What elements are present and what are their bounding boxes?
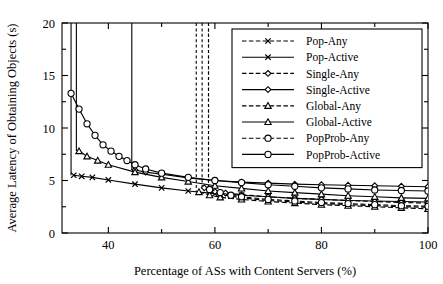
- marker-circle: [217, 189, 223, 195]
- legend-label: PopProb-Active: [306, 149, 380, 162]
- marker-circle: [265, 151, 271, 157]
- y-axis-label: Average Latency of Obtaining Objects (s): [5, 23, 19, 232]
- x-axis-label: Percentage of ASs with Content Servers (…: [134, 264, 356, 278]
- marker-circle: [68, 90, 74, 96]
- legend-label: Global-Active: [306, 116, 372, 128]
- legend-label: PopProb-Any: [306, 132, 370, 145]
- marker-circle: [265, 182, 271, 188]
- marker-circle: [143, 166, 149, 172]
- marker-circle: [212, 177, 218, 183]
- marker-circle: [124, 157, 130, 163]
- marker-circle: [238, 180, 244, 186]
- marker-circle: [265, 196, 271, 202]
- x-tick-label: 40: [102, 238, 115, 252]
- marker-circle: [159, 170, 165, 176]
- marker-circle: [318, 185, 324, 191]
- marker-circle: [425, 203, 431, 209]
- latency-line-chart: 40608010005101520Percentage of ASs with …: [0, 0, 443, 284]
- y-tick-label: 10: [43, 122, 56, 136]
- marker-circle: [238, 194, 244, 200]
- legend-label: Single-Any: [306, 68, 359, 81]
- marker-circle: [292, 183, 298, 189]
- marker-circle: [76, 106, 82, 112]
- y-tick-label: 5: [49, 174, 55, 188]
- x-tick-label: 80: [315, 238, 328, 252]
- marker-circle: [228, 192, 234, 198]
- marker-circle: [372, 187, 378, 193]
- marker-circle: [372, 202, 378, 208]
- marker-circle: [398, 203, 404, 209]
- legend-label: Pop-Active: [306, 51, 358, 64]
- marker-circle: [100, 142, 106, 148]
- marker-circle: [345, 201, 351, 207]
- x-tick-label: 100: [419, 238, 438, 252]
- marker-circle: [185, 174, 191, 180]
- marker-circle: [132, 162, 138, 168]
- marker-circle: [318, 199, 324, 205]
- marker-circle: [116, 153, 122, 159]
- marker-circle: [108, 148, 114, 154]
- marker-circle: [84, 121, 90, 127]
- y-tick-label: 15: [43, 69, 56, 83]
- marker-circle: [292, 198, 298, 204]
- series-line: [135, 170, 428, 187]
- marker-circle: [398, 187, 404, 193]
- x-tick-label: 60: [209, 238, 222, 252]
- chart-figure: 40608010005101520Percentage of ASs with …: [0, 0, 443, 284]
- marker-circle: [206, 186, 212, 192]
- y-tick-label: 0: [49, 227, 55, 241]
- legend-box: [232, 29, 422, 168]
- marker-circle: [265, 135, 271, 141]
- y-tick-label: 20: [43, 17, 56, 31]
- marker-circle: [345, 186, 351, 192]
- legend-label: Pop-Any: [306, 35, 348, 48]
- legend-label: Global-Any: [306, 100, 361, 113]
- marker-triangle: [84, 153, 90, 159]
- marker-circle: [425, 188, 431, 194]
- legend-label: Single-Active: [306, 84, 370, 97]
- marker-circle: [92, 132, 98, 138]
